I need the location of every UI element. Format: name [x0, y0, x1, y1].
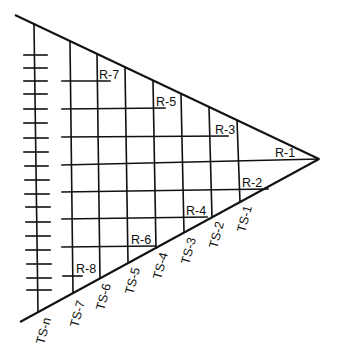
- triangular-grid-diagram: R-7 R-5 R-3 R-1 R-2 R-4 R-6 R-8 TS-n TS-…: [0, 0, 337, 361]
- column-line-ts-5: [125, 67, 128, 263]
- row-label-r-2: R-2: [242, 176, 262, 190]
- column-label-ts-2: TS-2: [206, 220, 227, 250]
- row-line-r-5: [62, 108, 165, 109]
- row-label-r-8: R-8: [76, 262, 96, 276]
- column-label-ts-n: TS-n: [33, 316, 54, 346]
- column-line-ts-7: [70, 41, 73, 293]
- spine-ts-n: [24, 24, 51, 312]
- row-label-r-1: R-1: [275, 146, 295, 160]
- column-label-ts-6: TS-6: [93, 282, 114, 312]
- column-label-ts-7: TS-7: [67, 299, 88, 329]
- bottom-edge: [20, 159, 319, 322]
- column-label-ts-5: TS-5: [122, 266, 143, 296]
- column-label-ts-1: TS-1: [234, 204, 255, 234]
- column-labels: TS-n TS-7 TS-6 TS-5 TS-4 TS-3 TS-2 TS-1: [33, 204, 255, 346]
- row-label-r-4: R-4: [186, 204, 206, 218]
- top-edge: [15, 15, 319, 159]
- column-label-ts-4: TS-4: [150, 251, 171, 281]
- row-label-r-6: R-6: [131, 233, 151, 247]
- column-lines: [70, 41, 240, 293]
- row-label-r-3: R-3: [215, 123, 235, 137]
- row-label-r-7: R-7: [99, 68, 119, 82]
- row-line-r-2: [62, 189, 268, 192]
- column-line-ts-6: [97, 54, 100, 278]
- row-label-r-5: R-5: [156, 95, 176, 109]
- column-label-ts-3: TS-3: [178, 236, 199, 266]
- row-line-r-3: [62, 136, 228, 137]
